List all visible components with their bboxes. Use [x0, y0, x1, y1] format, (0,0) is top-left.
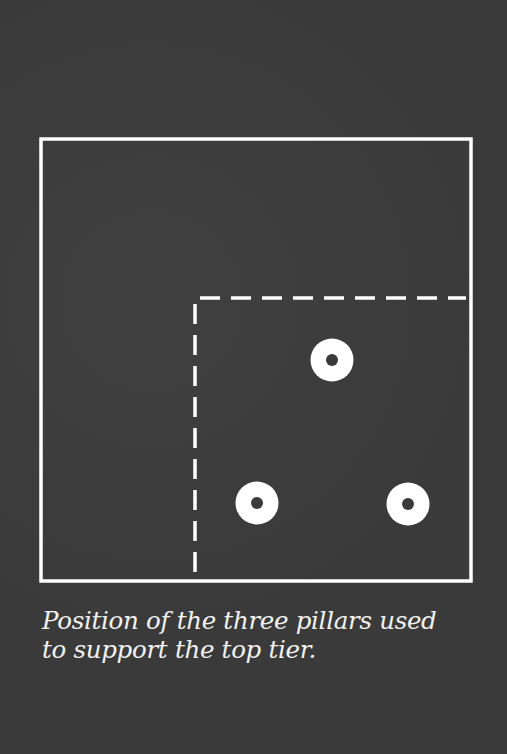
- pillar-top: [311, 339, 354, 382]
- pillar-bottom-left: [236, 482, 279, 525]
- caption-line-1: Position of the three pillars used: [42, 606, 482, 635]
- caption-line-2: to support the top tier.: [42, 635, 482, 664]
- figure-caption: Position of the three pillars used to su…: [42, 606, 482, 664]
- pillar-bottom-right: [387, 483, 430, 526]
